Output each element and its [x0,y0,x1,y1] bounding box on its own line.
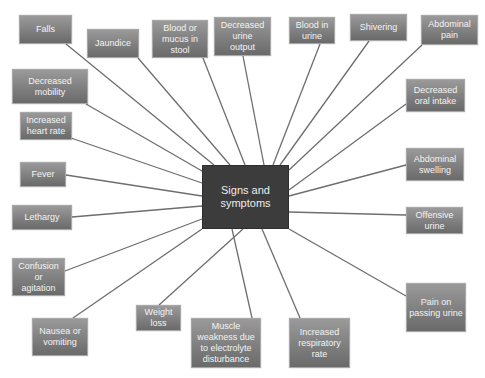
node-confusion-agitation: Confusion or agitation [12,258,65,296]
node-decreased-oral-intake: Decreased oral intake [406,79,465,112]
node-label: Weight loss [145,307,173,329]
node-label: Offensive urine [416,210,454,232]
node-lethargy: Lethargy [12,205,72,230]
connector-line-muscle-weakness [232,229,252,318]
node-blood-in-urine: Blood in urine [289,17,335,44]
node-pain-passing-urine: Pain on passing urine [406,283,466,332]
connector-line-lethargy [72,206,202,217]
node-offensive-urine: Offensive urine [406,207,463,234]
node-jaundice: Jaundice [87,29,139,58]
node-muscle-weakness: Muscle weakness due to electrolyte distu… [191,318,261,368]
connector-line-decreased-mobility [86,104,202,171]
node-label: Lethargy [24,212,59,223]
node-weight-loss: Weight loss [136,305,181,331]
center-node-label: Signs and symptoms [220,184,270,210]
node-label: Shivering [360,22,398,33]
node-fever: Fever [20,162,66,187]
connector-line-shivering [280,41,369,165]
connector-line-increased-heart-rate [71,138,202,183]
node-label: Abdominal swelling [414,154,457,176]
node-label: Fever [31,169,54,180]
node-label: Increased heart rate [26,115,66,137]
connector-line-weight-loss [159,229,243,305]
node-label: Jaundice [95,38,131,49]
connector-line-decreased-oral-intake [289,104,406,190]
node-increased-heart-rate: Increased heart rate [20,112,72,140]
node-label: Decreased mobility [28,76,72,98]
connector-line-fever [66,175,202,196]
connector-line-jaundice [138,58,230,165]
node-nausea-vomiting: Nausea or vomiting [32,318,88,356]
node-abdominal-pain: Abdominal pain [421,15,478,45]
center-node-signs-and-symptoms: Signs and symptoms [202,165,289,229]
node-decreased-mobility: Decreased mobility [12,69,88,104]
node-label: Decreased urine output [221,20,265,53]
connector-line-blood-mucus-stool [203,58,245,165]
node-shivering: Shivering [350,14,407,41]
connector-line-offensive-urine [289,212,406,215]
node-increased-respiratory-rate: Increased respiratory rate [289,318,350,368]
node-label: Blood or mucus in stool [162,23,198,56]
connector-line-pain-passing-urine [289,229,406,296]
connector-line-falls [66,44,214,165]
node-decreased-urine-output: Decreased urine output [214,17,271,56]
node-label: Abdominal pain [428,19,471,41]
node-label: Decreased oral intake [414,85,458,107]
node-label: Increased respiratory rate [298,327,341,360]
node-label: Pain on passing urine [409,297,463,319]
node-falls: Falls [19,15,72,44]
connector-line-confusion-agitation [65,219,202,271]
connector-line-increased-respiratory-rate [262,229,300,318]
node-label: Nausea or vomiting [39,326,81,348]
node-label: Confusion or agitation [18,261,59,294]
node-abdominal-swelling: Abdominal swelling [406,148,464,181]
node-label: Muscle weakness due to electrolyte distu… [197,321,255,365]
node-label: Blood in urine [296,20,329,42]
connector-line-decreased-urine-output [243,56,264,165]
node-label: Falls [36,24,55,35]
connector-line-abdominal-swelling [289,165,406,196]
signs-and-symptoms-diagram: Signs and symptoms Falls Jaundice Blood … [0,0,485,378]
node-blood-mucus-stool: Blood or mucus in stool [152,20,208,58]
